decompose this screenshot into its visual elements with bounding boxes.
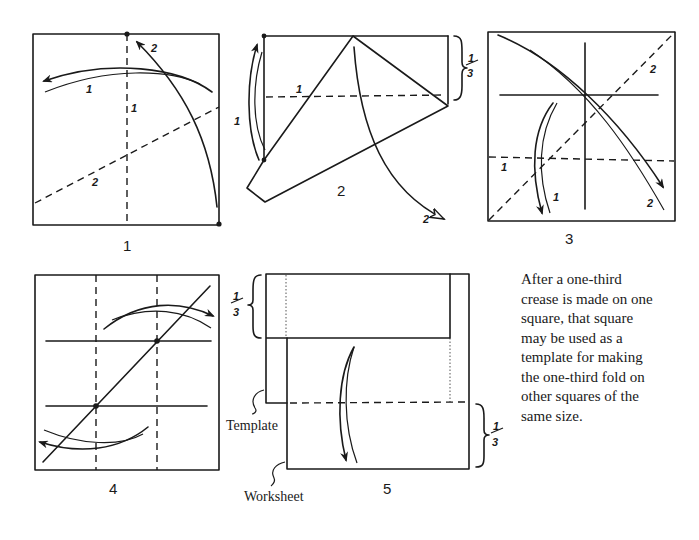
one-third-brace-top <box>248 275 261 338</box>
step-number: 1 <box>296 83 302 95</box>
step-number: 1 <box>553 191 559 203</box>
template-outline <box>266 274 450 403</box>
figure-4: 4 <box>35 275 219 497</box>
one-third-crease <box>489 157 674 161</box>
step-number: 1 <box>234 115 240 127</box>
figure-label: 5 <box>383 480 391 497</box>
fold-arrow <box>340 347 354 460</box>
reference-dot <box>262 34 267 39</box>
note-line: crease is made on one <box>521 290 696 310</box>
fold-arrow-lower <box>40 427 148 449</box>
intersection-dot <box>154 338 160 344</box>
note-line: other squares of the <box>521 387 696 407</box>
figure-label: 3 <box>565 230 573 247</box>
note-line: After a one-third <box>521 270 696 290</box>
fold-arrow-2 <box>137 42 217 207</box>
one-third-brace-bottom <box>476 404 489 467</box>
reference-dot <box>124 31 129 36</box>
intersection-dot <box>93 403 99 409</box>
reference-dot <box>216 221 221 226</box>
step-number: 1 <box>86 83 92 95</box>
step-number: 2 <box>422 213 429 225</box>
figure-1: 1 1 2 2 1 <box>33 31 222 254</box>
fold-arrow-lower-back <box>44 430 143 443</box>
template-leader <box>252 390 264 414</box>
instruction-note: After a one-third crease is made on one … <box>521 270 696 426</box>
fraction-denominator: 3 <box>492 436 498 448</box>
figure-label: 2 <box>337 182 345 199</box>
step-number: 2 <box>91 176 98 188</box>
fraction-denominator: 3 <box>233 306 239 318</box>
step-number: 1 <box>501 161 507 173</box>
note-line: same size. <box>521 407 696 427</box>
worksheet-outline <box>287 274 469 469</box>
fraction-denominator: 3 <box>467 67 473 79</box>
one-third-crease <box>266 95 446 97</box>
note-line: the one-third fold on <box>521 368 696 388</box>
fold-arrow-1 <box>249 45 259 160</box>
diagonal-line <box>43 286 210 462</box>
diagonal-crease <box>489 32 675 220</box>
figure-3: 1 1 2 2 3 <box>488 32 675 247</box>
fold-arrow-2 <box>354 47 444 219</box>
worksheet-leader <box>271 462 285 486</box>
fold-arrow-2 <box>498 35 663 187</box>
template-label: Template <box>226 418 278 433</box>
figure-2: 1 1 2 1 3 2 <box>234 34 478 225</box>
note-line: square, that square <box>521 309 696 329</box>
figure-label: 4 <box>109 480 117 497</box>
note-line: template for making <box>521 348 696 368</box>
worksheet-label: Worksheet <box>244 489 304 504</box>
step-number: 2 <box>646 197 653 209</box>
step-number: 2 <box>649 63 656 75</box>
paper-square <box>33 34 219 225</box>
note-line: may be used as a <box>521 329 696 349</box>
fold-arrow-2-back <box>530 50 664 210</box>
step-number: 1 <box>131 102 137 114</box>
one-third-brace <box>454 36 467 100</box>
fold-arrow-1 <box>44 68 212 92</box>
fold-arrow-back <box>346 347 357 463</box>
figure-5: 1 3 1 3 Template Worksheet 5 <box>226 274 503 504</box>
figure-label: 1 <box>123 237 131 254</box>
one-third-fold-line <box>290 402 468 403</box>
folded-flap <box>247 36 448 202</box>
step-number: 2 <box>150 42 157 54</box>
